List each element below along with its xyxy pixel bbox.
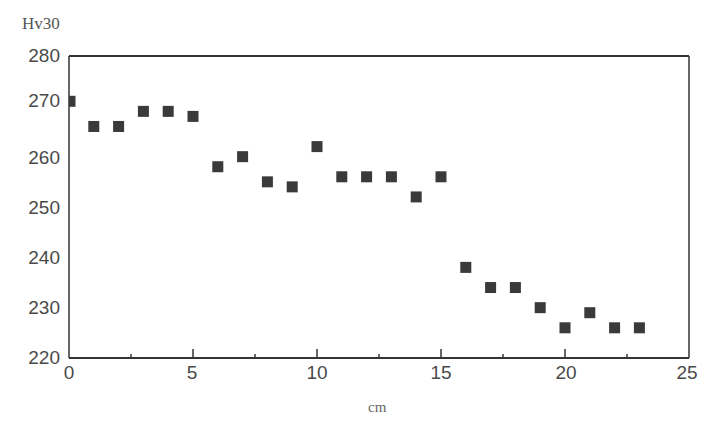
- data-point: [584, 307, 595, 318]
- data-point: [113, 121, 124, 132]
- data-points: [69, 96, 645, 333]
- data-point: [361, 171, 372, 182]
- data-point: [237, 151, 248, 162]
- data-point: [188, 111, 199, 122]
- data-point: [287, 181, 298, 192]
- scatter-plot: [0, 0, 714, 431]
- data-point: [510, 282, 521, 293]
- plot-frame: [69, 56, 689, 358]
- data-point: [560, 322, 571, 333]
- data-point: [88, 121, 99, 132]
- data-point: [634, 322, 645, 333]
- data-point: [411, 191, 422, 202]
- data-point: [138, 106, 149, 117]
- data-point: [312, 141, 323, 152]
- data-point: [163, 106, 174, 117]
- data-point: [535, 302, 546, 313]
- data-point: [609, 322, 620, 333]
- data-point: [386, 171, 397, 182]
- data-point: [460, 262, 471, 273]
- data-point: [262, 176, 273, 187]
- x-tick-marks: [131, 349, 627, 358]
- data-point: [69, 96, 76, 107]
- data-point: [485, 282, 496, 293]
- data-point: [212, 161, 223, 172]
- data-point: [336, 171, 347, 182]
- data-point: [436, 171, 447, 182]
